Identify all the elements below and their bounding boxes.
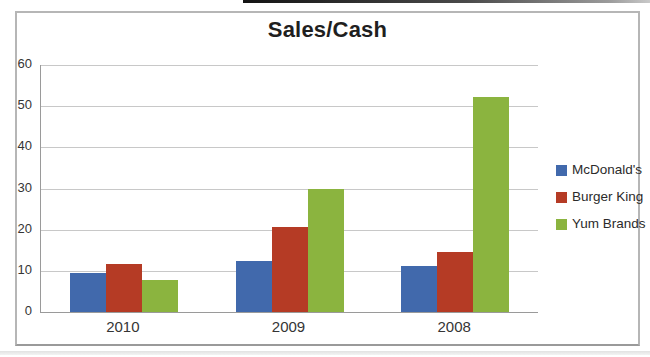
bar-mcdonald-s-2009 xyxy=(236,261,272,312)
legend-item: Burger King xyxy=(556,190,646,204)
bar-burger-king-2010 xyxy=(106,264,142,312)
chart-screenshot: Sales/Cash 0102030405060 201020092008 Mc… xyxy=(0,0,650,357)
y-tick-label: 60 xyxy=(18,57,32,70)
y-tick-label: 50 xyxy=(18,98,32,111)
y-tick-label: 0 xyxy=(25,304,32,317)
bar-yum-brands-2009 xyxy=(308,189,344,312)
photo-edge-bottom-artifact xyxy=(0,351,650,355)
y-tick-label: 30 xyxy=(18,181,32,194)
y-tick-label: 10 xyxy=(18,263,32,276)
x-axis-labels: 201020092008 xyxy=(40,319,537,339)
plot-area xyxy=(40,65,538,313)
bar-mcdonald-s-2008 xyxy=(401,266,437,312)
gridline xyxy=(41,189,538,190)
photo-edge-top-artifact xyxy=(243,0,650,3)
bar-burger-king-2008 xyxy=(437,252,473,312)
legend-item: McDonald's xyxy=(556,163,646,177)
legend-label: Yum Brands xyxy=(572,217,646,231)
legend-label: McDonald's xyxy=(572,163,642,177)
gridline xyxy=(41,147,538,148)
legend-swatch xyxy=(556,192,567,203)
x-tick-label: 2010 xyxy=(106,319,139,334)
legend-item: Yum Brands xyxy=(556,217,646,231)
x-tick-label: 2009 xyxy=(272,319,305,334)
legend-swatch xyxy=(556,219,567,230)
bar-burger-king-2009 xyxy=(272,227,308,312)
y-tick-label: 20 xyxy=(18,222,32,235)
bar-yum-brands-2008 xyxy=(473,97,509,312)
bar-yum-brands-2010 xyxy=(142,280,178,312)
legend-swatch xyxy=(556,165,567,176)
chart-title: Sales/Cash xyxy=(15,17,640,43)
y-axis-labels: 0102030405060 xyxy=(0,65,34,312)
y-tick-label: 40 xyxy=(18,139,32,152)
gridline xyxy=(41,106,538,107)
legend-label: Burger King xyxy=(572,190,643,204)
x-tick-label: 2008 xyxy=(437,319,470,334)
gridline xyxy=(41,65,538,66)
bar-mcdonald-s-2010 xyxy=(70,273,106,312)
legend: McDonald'sBurger KingYum Brands xyxy=(556,163,646,244)
